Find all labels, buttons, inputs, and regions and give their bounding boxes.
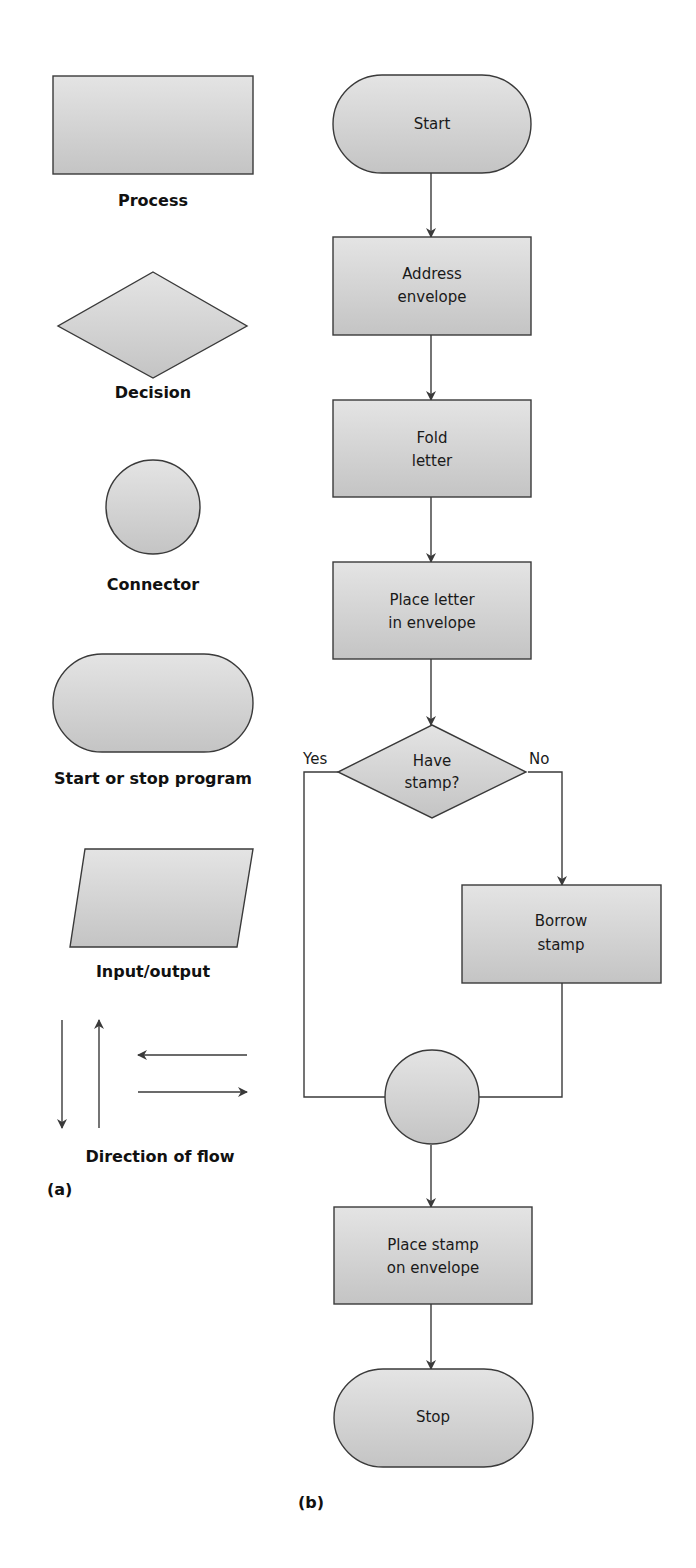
node-label: Place stamp [387, 1236, 479, 1254]
connector-circle-icon [106, 460, 200, 554]
process-shape [333, 237, 531, 335]
legend-connector: Connector [106, 460, 200, 594]
node-label: Fold [417, 429, 448, 447]
node-label: Place letter [389, 591, 475, 609]
legend-label: Connector [107, 575, 199, 594]
branch-label-yes: Yes [302, 750, 327, 768]
node-label: Stop [416, 1408, 450, 1426]
node-label: letter [412, 452, 453, 470]
process-shape [333, 400, 531, 497]
panel-label-a: (a) [47, 1180, 72, 1199]
node-label: Have [413, 752, 452, 770]
node-label: stamp [537, 936, 584, 954]
decision-shape [338, 725, 526, 818]
node-label: envelope [398, 288, 467, 306]
decision-diamond-icon [58, 272, 247, 378]
node-connector [385, 1050, 479, 1144]
process-shape [462, 885, 661, 983]
legend-flow-arrows: Direction of flow [62, 1020, 247, 1166]
legend-label: Process [118, 191, 188, 210]
panel-label-b: (b) [298, 1493, 324, 1512]
input-output-parallelogram-icon [70, 849, 253, 947]
legend-label: Decision [115, 383, 192, 402]
node-fold-letter: Fold letter [333, 400, 531, 497]
legend-label: Input/output [96, 962, 211, 981]
flow-line-yes [304, 772, 385, 1097]
legend-io: Input/output [70, 849, 253, 981]
connector-shape [385, 1050, 479, 1144]
branch-label-no: No [529, 750, 549, 768]
node-label: Borrow [535, 912, 588, 930]
process-rectangle-icon [53, 76, 253, 174]
flowchart-figure: Process Decision Connector Start or stop… [0, 0, 696, 1568]
node-label: on envelope [387, 1259, 479, 1277]
flow-line-borrow [479, 983, 562, 1097]
process-shape [334, 1207, 532, 1304]
legend-decision: Decision [58, 272, 247, 402]
node-label: in envelope [388, 614, 475, 632]
node-have-stamp: Have stamp? Yes No [302, 725, 549, 818]
node-label: stamp? [405, 774, 460, 792]
legend-terminal: Start or stop program [53, 654, 253, 788]
node-borrow-stamp: Borrow stamp [462, 885, 661, 983]
flow-arrow-no [528, 772, 562, 885]
legend: Process Decision Connector Start or stop… [47, 76, 253, 1199]
terminal-pill-icon [53, 654, 253, 752]
node-place-letter: Place letter in envelope [333, 562, 531, 659]
legend-process: Process [53, 76, 253, 210]
node-stop: Stop [334, 1369, 533, 1467]
process-shape [333, 562, 531, 659]
node-start: Start [333, 75, 531, 173]
node-address-envelope: Address envelope [333, 237, 531, 335]
legend-label: Start or stop program [54, 769, 252, 788]
flowchart: Start Address envelope Fold letter Place… [298, 75, 661, 1512]
node-place-stamp: Place stamp on envelope [334, 1207, 532, 1304]
node-label: Start [414, 115, 451, 133]
node-label: Address [402, 265, 462, 283]
legend-label: Direction of flow [85, 1147, 234, 1166]
